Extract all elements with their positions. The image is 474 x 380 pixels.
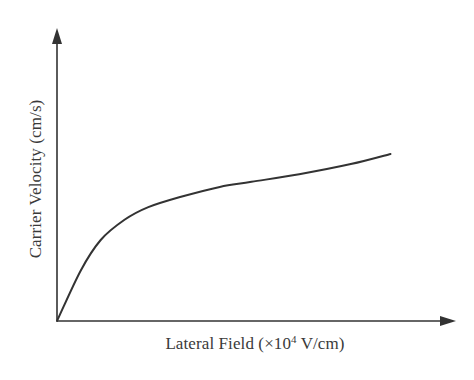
x-axis-label: Lateral Field (×104 V/cm): [145, 334, 365, 354]
velocity-curve: [57, 154, 391, 321]
y-axis-label: Carrier Velocity (cm/s): [26, 100, 46, 259]
y-axis-arrow-icon: [52, 28, 62, 44]
x-axis-label-prefix: Lateral Field (×10: [165, 334, 291, 353]
x-axis-label-suffix: V/cm): [297, 334, 345, 353]
chart-plot: [0, 0, 474, 380]
x-axis-arrow-icon: [440, 316, 456, 326]
